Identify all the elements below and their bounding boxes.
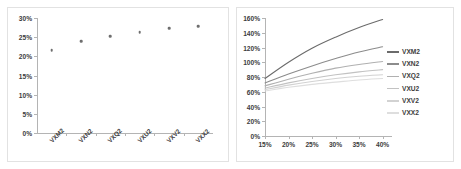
y-axis-tick (34, 114, 37, 115)
data-point (80, 40, 83, 43)
y-axis-tick-label: 15% (19, 72, 32, 79)
scatter-plot-area: 30%25%20%15%10%5%0%VXM2VXN2VXQ2VXU2VXV2V… (8, 8, 228, 161)
x-axis-tick (96, 133, 97, 136)
y-axis-tick-label: 0% (22, 130, 32, 137)
legend-item[interactable]: VXV2 (387, 95, 420, 107)
legend-item[interactable]: VXM2 (387, 46, 420, 58)
y-axis-tick (34, 56, 37, 57)
legend-swatch (387, 112, 399, 114)
legend-label: VXU2 (402, 85, 419, 93)
line-plot-area: 160%140%120%100%80%60%40%20%0%15%20%25%3… (237, 8, 453, 161)
line-series-vxm2 (265, 19, 383, 78)
data-point (50, 49, 53, 52)
line-series-vxq2 (265, 62, 383, 86)
legend-item[interactable]: VXQ2 (387, 70, 420, 82)
data-point (109, 35, 112, 38)
legend-swatch (387, 76, 399, 78)
y-axis-tick-label: 20% (19, 53, 32, 60)
x-axis-category-label: VXQ2 (106, 127, 123, 144)
legend-item[interactable]: VXN2 (387, 58, 420, 70)
chart-page: 30%25%20%15%10%5%0%VXM2VXN2VXQ2VXU2VXV2V… (0, 0, 461, 169)
y-axis-line (37, 18, 38, 133)
y-axis-tick (34, 95, 37, 96)
line-series-vxu2 (265, 70, 383, 88)
legend-label: VXV2 (402, 97, 419, 105)
x-axis-tick (184, 133, 185, 136)
legend-label: VXN2 (402, 60, 419, 68)
legend-label: VXX2 (402, 109, 419, 117)
line-series-vxn2 (265, 47, 383, 83)
x-axis-tick (66, 133, 67, 136)
legend-label: VXM2 (402, 48, 420, 56)
x-axis-category-label: VXN2 (77, 127, 94, 144)
x-axis-category-label: VXX2 (194, 127, 211, 144)
y-axis-tick-label: 10% (19, 91, 32, 98)
y-axis-tick (34, 18, 37, 19)
x-axis-category-label: VXV2 (165, 127, 182, 144)
data-point (138, 31, 141, 34)
line-chart-panel: 160%140%120%100%80%60%40%20%0%15%20%25%3… (236, 7, 454, 162)
y-axis-tick-label: 5% (22, 110, 32, 117)
legend-label: VXQ2 (402, 72, 420, 80)
y-axis-tick-label: 25% (19, 34, 32, 41)
y-axis-tick (34, 76, 37, 77)
y-axis-tick (34, 133, 37, 134)
legend-item[interactable]: VXX2 (387, 107, 420, 119)
data-point (197, 25, 200, 28)
legend-swatch (387, 88, 399, 90)
line-series-group (237, 8, 453, 161)
legend-swatch (387, 100, 399, 102)
x-axis-category-label: VXU2 (136, 127, 153, 144)
legend-swatch (387, 51, 399, 53)
scatter-chart-panel: 30%25%20%15%10%5%0%VXM2VXN2VXQ2VXU2VXV2V… (7, 7, 229, 162)
chart-legend: VXM2VXN2VXQ2VXU2VXV2VXX2 (387, 46, 420, 119)
x-axis-tick (125, 133, 126, 136)
x-axis-tick (154, 133, 155, 136)
legend-item[interactable]: VXU2 (387, 83, 420, 95)
y-axis-tick (34, 37, 37, 38)
data-point (168, 27, 171, 30)
y-axis-tick-label: 30% (19, 15, 32, 22)
legend-swatch (387, 63, 399, 65)
x-axis-category-label: VXM2 (48, 127, 65, 144)
